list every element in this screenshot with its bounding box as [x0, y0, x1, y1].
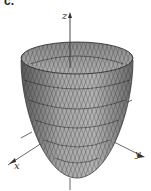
x-axis-label: x	[14, 160, 20, 171]
z-axis-arrow	[68, 12, 72, 18]
paraboloid-figure: c. z x y	[0, 0, 151, 191]
y-axis-label: y	[135, 148, 141, 159]
figure-part-label: c.	[4, 0, 14, 8]
paraboloid-plot	[0, 0, 151, 191]
z-axis-label: z	[62, 10, 67, 21]
